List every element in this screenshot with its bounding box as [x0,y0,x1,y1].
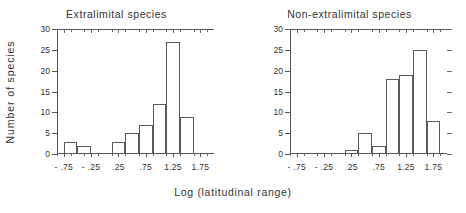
y-tick-mirror-25 [447,50,452,51]
y-tick-20 [52,71,57,72]
x-tick-minor-top [331,29,332,32]
x-tick-minor-top [317,29,318,32]
top-rule-left [57,29,214,30]
y-tick-label-30: 30 [274,24,283,34]
x-axis-title: Log (latitudinal range) [0,186,466,198]
top-rule-right [290,29,447,30]
x-tick-minor-top [71,29,72,32]
x-tick-minor-top [166,29,167,32]
y-tick-label-25: 25 [274,45,283,55]
x-tick-minor [57,153,58,156]
x-tick-minor [98,153,99,156]
x-tick-minor-top [84,29,85,32]
y-axis-title-left-text: Number of species [4,40,16,143]
x-tick-0 [297,153,298,157]
plot-area-non-extralimital: 051015202530- .75- .25.25.751.251.75 [290,29,447,154]
x-tick-minor-top [125,29,126,32]
x-tick-label-2: .25 [112,162,125,172]
y-tick-label-10: 10 [274,107,283,117]
y-tick-15 [285,92,290,93]
x-tick-minor-top [440,29,441,32]
x-tick-minor-top [304,29,305,32]
histogram-bar [77,146,91,154]
x-tick-minor-top [290,29,291,32]
histogram-bar [139,125,153,154]
y-axis-line-left [57,29,58,154]
histogram-figure: Extralimital species Number of species 0… [0,0,466,213]
histogram-bar [386,79,400,154]
x-tick-label-1: - .25 [82,162,101,172]
histogram-bar [413,50,427,154]
x-tick-minor-top [413,29,414,32]
histogram-bar [112,142,126,155]
y-tick-mirror-20 [447,71,452,72]
plot-area-extralimital: 051015202530- .75- .25.25.751.251.75 [57,29,214,154]
y-tick-mirror-5 [447,133,452,134]
y-tick-mirror-10 [447,112,452,113]
x-tick-top-0 [297,29,298,33]
x-tick-top-4 [406,29,407,33]
y-tick-label-0: 0 [45,149,50,159]
x-tick-top-0 [64,29,65,33]
x-tick-minor-top [345,29,346,32]
x-tick-minor [194,153,195,156]
y-tick-label-20: 20 [41,66,50,76]
y-tick-mirror-30 [447,29,452,30]
y-tick-5 [285,133,290,134]
histogram-bar [125,133,139,154]
x-tick-minor [290,153,291,156]
y-axis-title-left: Number of species [2,29,18,154]
y-tick-label-25: 25 [41,45,50,55]
x-tick-minor-top [139,29,140,32]
x-tick-minor-top [386,29,387,32]
y-tick-5 [52,133,57,134]
histogram-bar [372,146,386,154]
x-tick-label-5: 1.75 [191,162,209,172]
y-tick-label-30: 30 [41,24,50,34]
y-tick-label-10: 10 [41,107,50,117]
y-tick-label-0: 0 [278,149,283,159]
x-tick-label-4: 1.25 [164,162,182,172]
panel-non-extralimital: Non-extralimital species 051015202530- .… [233,0,466,213]
histogram-bar [399,75,413,154]
y-tick-label-15: 15 [274,87,283,97]
x-tick-minor [207,153,208,156]
y-tick-label-5: 5 [278,128,283,138]
x-tick-top-1 [91,29,92,33]
x-tick-label-3: .75 [372,162,385,172]
panel-extralimital: Extralimital species Number of species 0… [0,0,233,213]
x-tick-minor [440,153,441,156]
y-tick-25 [52,50,57,51]
x-tick-minor-top [427,29,428,32]
y-tick-label-20: 20 [274,66,283,76]
histogram-bar [358,133,372,154]
x-tick-1 [91,153,92,157]
x-tick-top-1 [324,29,325,33]
y-tick-10 [52,112,57,113]
x-tick-label-1: - .25 [315,162,334,172]
x-tick-top-5 [200,29,201,33]
x-tick-top-3 [146,29,147,33]
x-tick-label-2: .25 [345,162,358,172]
x-tick-minor [304,153,305,156]
y-tick-label-5: 5 [45,128,50,138]
x-tick-minor-top [180,29,181,32]
panel-title-non-extralimital: Non-extralimital species [233,8,466,20]
x-tick-label-3: .75 [139,162,152,172]
x-tick-minor-top [57,29,58,32]
x-tick-1 [324,153,325,157]
y-tick-20 [285,71,290,72]
y-axis-line-right [290,29,291,154]
histogram-bar [166,42,180,155]
x-tick-top-3 [379,29,380,33]
x-tick-label-5: 1.75 [424,162,442,172]
x-tick-minor [331,153,332,156]
histogram-bar [64,142,78,155]
y-tick-25 [285,50,290,51]
y-tick-15 [52,92,57,93]
x-tick-label-4: 1.25 [397,162,415,172]
x-tick-5 [200,153,201,157]
x-tick-top-5 [433,29,434,33]
x-tick-label-0: - .75 [55,162,74,172]
x-tick-minor-top [112,29,113,32]
